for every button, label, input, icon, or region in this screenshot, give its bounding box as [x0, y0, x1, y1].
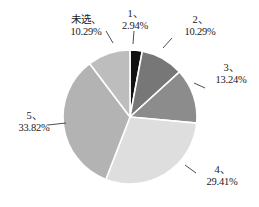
pie-label-2-percent: 10.29%	[174, 26, 226, 38]
pie-chart: 未选、 10.29% 1、 2.94% 2、 10.29% 3、 13.24% …	[0, 0, 259, 207]
pie-slice-group	[63, 50, 197, 184]
pie-label-5-percent: 33.82%	[8, 122, 60, 134]
pie-label-3: 3、 13.24%	[206, 62, 256, 85]
pie-label-weixuan-name: 未选、	[60, 14, 112, 26]
pie-label-2: 2、 10.29%	[174, 14, 226, 37]
leader-line-1	[133, 31, 134, 44]
leader-line-4	[185, 165, 196, 173]
pie-label-1-name: 1、	[114, 8, 156, 20]
pie-label-5-name: 5、	[8, 110, 60, 122]
pie-label-4-percent: 29.41%	[196, 176, 248, 188]
pie-label-4: 4、 29.41%	[196, 164, 248, 187]
pie-label-1-percent: 2.94%	[114, 20, 156, 32]
pie-label-1: 1、 2.94%	[114, 8, 156, 31]
pie-label-2-name: 2、	[174, 14, 226, 26]
leader-line-2	[163, 38, 172, 48]
pie-label-weixuan-percent: 10.29%	[60, 26, 112, 38]
pie-label-4-name: 4、	[196, 164, 248, 176]
pie-label-weixuan: 未选、 10.29%	[60, 14, 112, 37]
pie-label-3-percent: 13.24%	[206, 74, 256, 86]
pie-label-5: 5、 33.82%	[8, 110, 60, 133]
pie-label-3-name: 3、	[206, 62, 256, 74]
leader-line-3	[194, 83, 205, 88]
